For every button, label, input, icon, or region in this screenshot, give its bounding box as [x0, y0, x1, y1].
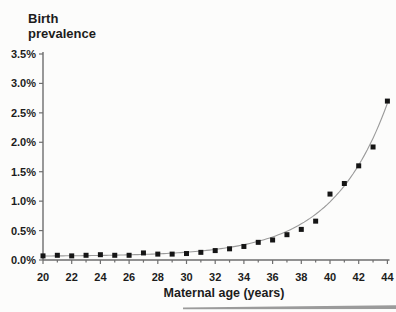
y-tick-label: 0.0%	[11, 254, 36, 266]
bottom-page-rule	[183, 305, 396, 309]
y-axis-title-line2: prevalence	[28, 26, 96, 41]
y-tick-label: 1.0%	[11, 195, 36, 207]
data-point	[55, 253, 60, 258]
x-tick-label: 22	[66, 271, 78, 283]
y-tick-label: 1.5%	[11, 166, 36, 178]
data-point	[141, 250, 146, 255]
trend-curve-group	[43, 103, 387, 256]
data-points-group	[41, 99, 390, 259]
y-axis-ticks: 0.0%0.5%1.0%1.5%2.0%2.5%3.0%3.5%	[11, 48, 43, 266]
data-point	[198, 250, 203, 255]
data-point	[213, 248, 218, 253]
x-tick-label: 44	[381, 271, 394, 283]
x-tick-label: 28	[152, 271, 164, 283]
x-tick-label: 42	[353, 271, 365, 283]
data-point	[284, 232, 289, 237]
axes	[43, 52, 390, 260]
x-tick-label: 20	[37, 271, 49, 283]
data-point	[371, 144, 376, 149]
data-point	[270, 237, 275, 242]
data-point	[127, 253, 132, 258]
birth-prevalence-chart: Birth prevalence 0.0%0.5%1.0%1.5%2.0%2.5…	[0, 0, 396, 312]
x-tick-label: 36	[266, 271, 278, 283]
data-point	[385, 99, 390, 104]
y-tick-label: 2.5%	[11, 107, 36, 119]
data-point	[342, 181, 347, 186]
data-point	[356, 163, 361, 168]
x-tick-label: 34	[238, 271, 251, 283]
data-point	[184, 251, 189, 256]
y-tick-label: 3.5%	[11, 48, 36, 60]
data-point	[84, 253, 89, 258]
data-point	[170, 252, 175, 257]
x-tick-label: 40	[324, 271, 336, 283]
trend-curve	[43, 103, 387, 256]
x-tick-label: 26	[123, 271, 135, 283]
y-tick-label: 0.5%	[11, 225, 36, 237]
birth-prevalence-figure: Birth prevalence 0.0%0.5%1.0%1.5%2.0%2.5…	[0, 0, 396, 312]
data-point	[227, 246, 232, 251]
x-axis-ticks: 20222426283032343638404244	[37, 260, 395, 283]
y-tick-label: 3.0%	[11, 77, 36, 89]
x-axis-label: Maternal age (years)	[164, 286, 285, 300]
data-point	[41, 253, 46, 258]
data-point	[155, 252, 160, 257]
x-tick-label: 24	[94, 271, 107, 283]
data-point	[256, 240, 261, 245]
y-axis-title-line1: Birth	[28, 11, 58, 26]
y-tick-label: 2.0%	[11, 136, 36, 148]
data-point	[69, 253, 74, 258]
x-tick-label: 32	[209, 271, 221, 283]
data-point	[112, 253, 117, 258]
data-point	[299, 227, 304, 232]
x-tick-label: 30	[180, 271, 192, 283]
x-tick-label: 38	[295, 271, 307, 283]
data-point	[241, 244, 246, 249]
data-point	[313, 219, 318, 224]
data-point	[328, 192, 333, 197]
data-point	[98, 252, 103, 257]
